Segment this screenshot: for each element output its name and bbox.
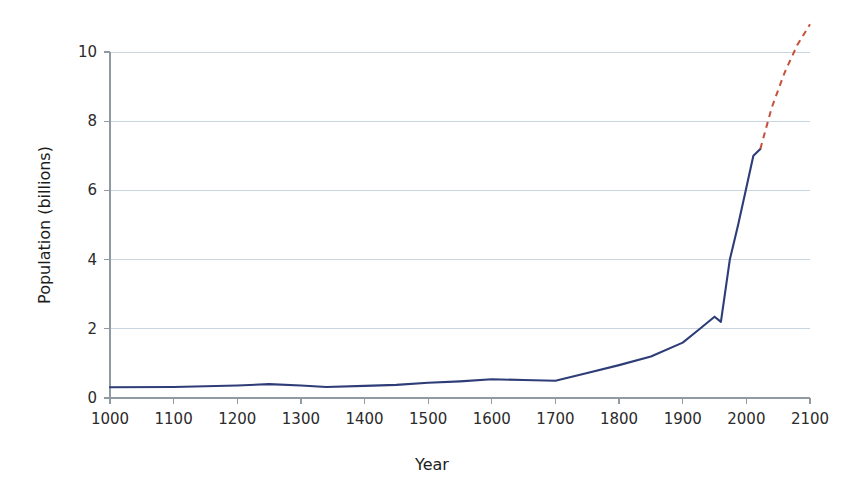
x-tick-label-1800: 1800 bbox=[600, 410, 638, 428]
x-tick-label-1300: 1300 bbox=[282, 410, 320, 428]
x-tick-label-2100: 2100 bbox=[791, 410, 829, 428]
x-tick-label-1600: 1600 bbox=[473, 410, 511, 428]
y-axis-tick-labels: 0246810 bbox=[78, 43, 97, 407]
x-tick-label-1900: 1900 bbox=[664, 410, 702, 428]
series-line-projection bbox=[760, 24, 810, 149]
y-tick-label-10: 10 bbox=[78, 43, 97, 61]
x-tick-label-1100: 1100 bbox=[155, 410, 193, 428]
x-tick-label-1700: 1700 bbox=[536, 410, 574, 428]
y-tick-label-6: 6 bbox=[87, 181, 97, 199]
x-tick-label-1200: 1200 bbox=[218, 410, 256, 428]
tickmarks-group bbox=[104, 52, 810, 404]
x-tick-label-1000: 1000 bbox=[91, 410, 129, 428]
x-tick-label-2000: 2000 bbox=[727, 410, 765, 428]
y-axis-title: Population (billions) bbox=[35, 146, 54, 304]
y-tick-label-4: 4 bbox=[87, 251, 97, 269]
gridlines-group bbox=[110, 52, 810, 398]
y-tick-label-0: 0 bbox=[87, 389, 97, 407]
series-line-historical bbox=[110, 149, 760, 387]
x-axis-tick-labels: 1000110012001300140015001600170018001900… bbox=[91, 410, 829, 428]
y-tick-label-2: 2 bbox=[87, 320, 97, 338]
x-axis-title: Year bbox=[414, 455, 449, 474]
population-growth-chart: 0246810 10001100120013001400150016001700… bbox=[0, 0, 844, 498]
chart-canvas: 0246810 10001100120013001400150016001700… bbox=[0, 0, 844, 498]
y-tick-label-8: 8 bbox=[87, 112, 97, 130]
data-series-group bbox=[110, 24, 810, 387]
x-tick-label-1500: 1500 bbox=[409, 410, 447, 428]
x-tick-label-1400: 1400 bbox=[345, 410, 383, 428]
